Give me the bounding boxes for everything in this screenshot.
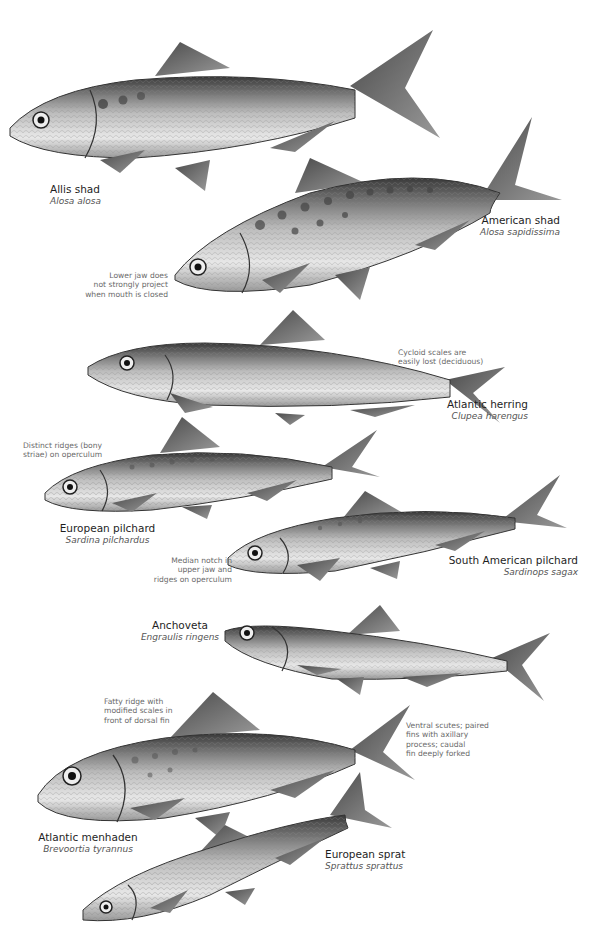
scientific-name-american-shad: Alosa sapidissima [410, 227, 560, 238]
common-name-south-american-pilchard: South American pilchard [420, 554, 578, 567]
scientific-name-european-sprat: Sprattus sprattus [325, 861, 405, 872]
note-south-american-pilchard-notch: Median notch in upper jaw and ridges on … [150, 556, 232, 584]
common-name-atlantic-herring: Atlantic herring [400, 398, 528, 411]
note-atlantic-herring-scales: Cycloid scales are easily lost (deciduou… [398, 348, 483, 367]
scientific-name-atlantic-herring: Clupea harengus [400, 411, 528, 422]
note-american-shad-jaw: Lower jaw does not strongly project when… [60, 271, 168, 299]
note-european-pilchard-ridges: Distinct ridges (bony striae) on opercul… [23, 441, 102, 460]
scientific-name-allis-shad: Alosa alosa [50, 196, 101, 207]
common-name-european-pilchard: European pilchard [30, 522, 185, 535]
common-name-european-sprat: European sprat [325, 848, 405, 861]
common-name-allis-shad: Allis shad [50, 183, 101, 196]
note-atlantic-menhaden-scutes: Ventral scutes; paired fins with axillar… [406, 721, 489, 759]
fish-illustration-anchoveta [222, 603, 552, 703]
fish-illustration-american-shad [170, 115, 570, 305]
scientific-name-anchoveta: Engraulis ringens [140, 632, 220, 643]
clupeoid-fish-identification-plate: Allis shad Alosa alosa American shad Alo… [0, 0, 589, 947]
scientific-name-south-american-pilchard: Sardinops sagax [420, 567, 578, 578]
common-name-american-shad: American shad [410, 214, 560, 227]
scientific-name-european-pilchard: Sardina pilchardus [30, 535, 185, 546]
note-atlantic-menhaden-ridge: Fatty ridge with modified scales in fron… [104, 697, 173, 725]
common-name-anchoveta: Anchoveta [140, 619, 220, 632]
